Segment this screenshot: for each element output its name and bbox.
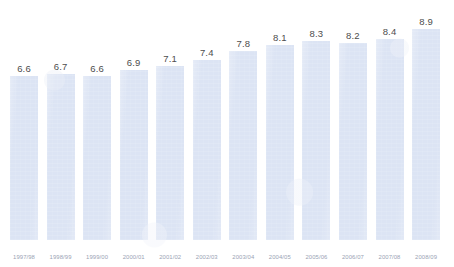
bar[interactable] [10,76,38,240]
bar-group: 8.1 [266,45,294,240]
bar-value-label: 8.9 [403,17,449,27]
x-axis-tick-label: 1997/98 [5,254,43,261]
bar-group: 6.7 [47,74,75,240]
bar-group: 8.3 [302,41,330,240]
x-axis-tick-label: 2007/08 [371,254,409,261]
x-axis-tick-label: 2005/06 [297,254,335,261]
bar[interactable] [83,76,111,240]
bar-group: 6.6 [83,76,111,240]
x-axis-tick-label: 2006/07 [334,254,372,261]
bar-group: 8.2 [339,43,367,240]
x-axis-tick-label: 1999/00 [78,254,116,261]
x-axis-tick-label: 2001/02 [151,254,189,261]
bar[interactable] [376,39,404,240]
bar[interactable] [47,74,75,240]
bar-group: 8.9 [412,29,440,240]
bar-group: 7.8 [229,51,257,240]
bar[interactable] [412,29,440,240]
bar[interactable] [229,51,257,240]
x-axis-tick-label: 2004/05 [261,254,299,261]
bar-value-label: 8.4 [367,27,413,37]
x-axis-tick-label: 2003/04 [224,254,262,261]
plot-area: 6.61997/986.71998/996.61999/006.92000/01… [0,0,454,267]
bar[interactable] [339,43,367,240]
bar-chart: 6.61997/986.71998/996.61999/006.92000/01… [0,0,454,267]
x-axis-tick-label: 2000/01 [115,254,153,261]
bar-group: 7.1 [156,66,184,240]
bar[interactable] [120,70,148,240]
bar[interactable] [156,66,184,240]
bar-group: 6.6 [10,76,38,240]
bar-group: 7.4 [193,60,221,240]
x-axis-tick-label: 2002/03 [188,254,226,261]
bar-group: 8.4 [376,39,404,240]
x-axis-tick-label: 2008/09 [407,254,445,261]
bar-group: 6.9 [120,70,148,240]
bar[interactable] [266,45,294,240]
x-axis-tick-label: 1998/99 [42,254,80,261]
bar[interactable] [193,60,221,240]
bar[interactable] [302,41,330,240]
